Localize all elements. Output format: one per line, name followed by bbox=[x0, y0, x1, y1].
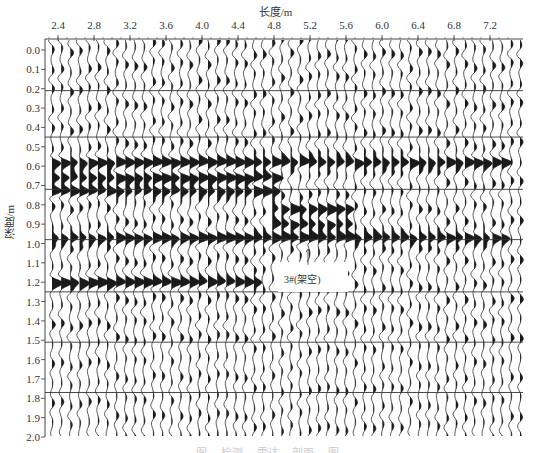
wiggle-trace-plot bbox=[0, 0, 535, 453]
figure-caption: 图 ... 检测 ... 雷达 ... 剖面 ... 图 bbox=[0, 444, 535, 453]
void-annotation-label: 3#(架空) bbox=[282, 271, 323, 286]
radar-profile-figure: 长度/m 深度/m 2.42.83.23.64.04.44.85.25.66.0… bbox=[0, 0, 535, 453]
